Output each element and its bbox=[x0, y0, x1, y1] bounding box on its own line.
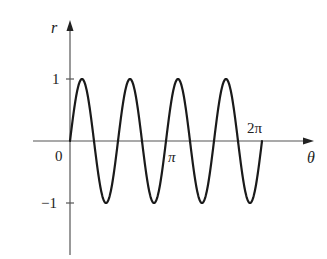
theta-axis-label: θ bbox=[307, 149, 315, 166]
r-axis-arrow-icon bbox=[67, 20, 74, 31]
theta-axis-arrow-icon bbox=[303, 138, 314, 145]
r-axis-label: r bbox=[51, 19, 58, 36]
r-tick-label-neg1: −1 bbox=[41, 195, 57, 211]
two-pi-label: 2π bbox=[247, 120, 263, 136]
polar-rectangular-plot: r θ 0 π 2π 1 −1 bbox=[0, 0, 327, 259]
r-tick-label-1: 1 bbox=[52, 71, 60, 87]
pi-label: π bbox=[168, 149, 176, 165]
origin-label: 0 bbox=[55, 148, 63, 164]
